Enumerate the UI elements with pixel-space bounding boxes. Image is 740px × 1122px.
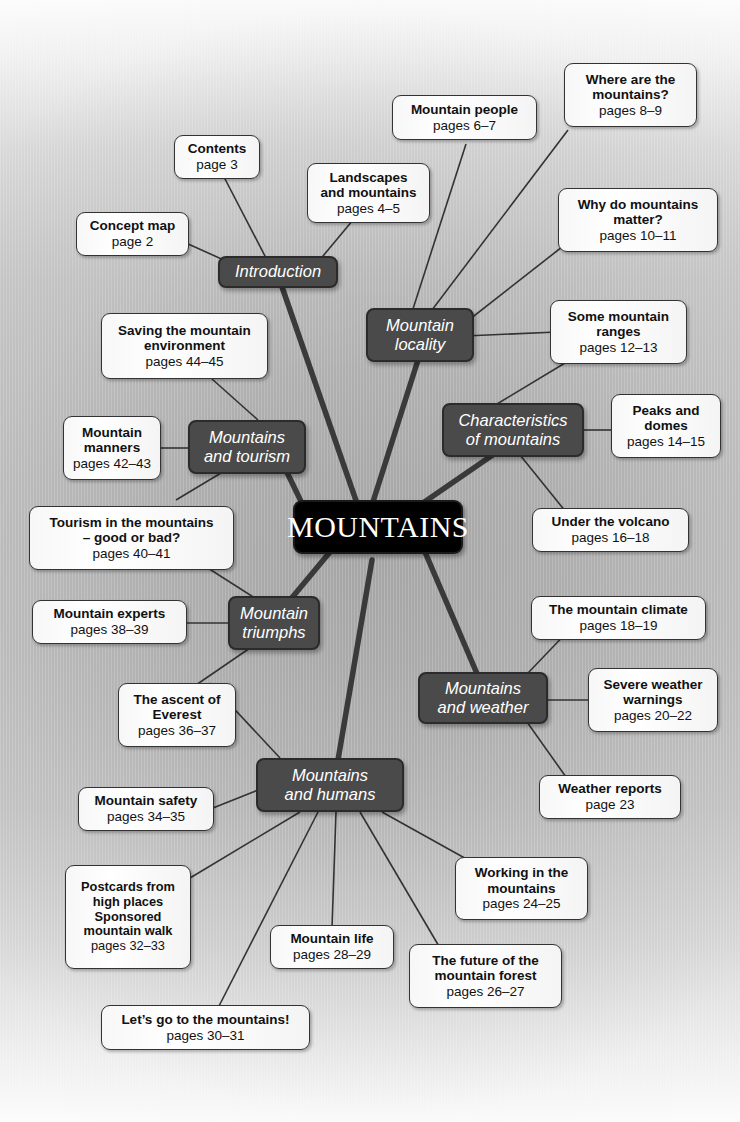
leaf-pages-the-ascent-of-everest: pages 36–37 <box>138 723 216 739</box>
trunk-characteristics <box>420 452 497 505</box>
leaf-node-some-mountain-ranges[interactable]: Some mountainranges pages 12–13 <box>550 300 687 364</box>
leaf-node-mountain-manners[interactable]: Mountainmanners pages 42–43 <box>63 416 161 480</box>
link-tourism-good-bad-2 <box>176 470 226 500</box>
leaf-node-lets-go-to-the-mountains[interactable]: Let’s go to the mountains! pages 30–31 <box>101 1005 310 1050</box>
branch-label-mountains-and-tourism: Mountainsand tourism <box>204 428 290 467</box>
leaf-title-weather-reports: Weather reports <box>558 781 661 797</box>
leaf-title-mountain-safety: Mountain safety <box>95 793 198 809</box>
leaf-pages-working-in-the-mountains: pages 24–25 <box>482 896 560 912</box>
center-node-mountains[interactable]: MOUNTAINS <box>293 500 463 554</box>
leaf-node-working-in-the-mountains[interactable]: Working in themountains pages 24–25 <box>455 857 588 920</box>
leaf-pages-mountain-safety: pages 34–35 <box>107 809 185 825</box>
leaf-node-under-the-volcano[interactable]: Under the volcano pages 16–18 <box>532 508 689 552</box>
leaf-node-the-mountain-climate[interactable]: The mountain climate pages 18–19 <box>531 596 706 640</box>
branch-node-mountain-locality[interactable]: Mountainlocality <box>366 308 474 362</box>
branch-label-mountain-locality: Mountainlocality <box>386 316 454 355</box>
leaf-title-working-in-the-mountains: Working in themountains <box>475 865 569 896</box>
leaf-title-landscapes: Landscapesand mountains <box>320 170 416 201</box>
leaf-pages-the-future-of-the-mountain-forest: pages 26–27 <box>446 984 524 1000</box>
leaf-title-lets-go-to-the-mountains: Let’s go to the mountains! <box>121 1012 289 1028</box>
leaf-title-postcards-from-high-places: Postcards fromhigh placesSponsoredmounta… <box>81 880 175 939</box>
leaf-pages-the-mountain-climate: pages 18–19 <box>579 618 657 634</box>
trunk-humans <box>338 560 372 760</box>
leaf-pages-landscapes: pages 4–5 <box>337 201 400 217</box>
leaf-title-peaks-and-domes: Peaks anddomes <box>633 403 700 434</box>
leaf-pages-mountain-manners: pages 42–43 <box>73 456 151 472</box>
link-under-volcano <box>520 455 566 512</box>
link-mountain-safety <box>213 790 258 808</box>
leaf-pages-peaks-and-domes: pages 14–15 <box>627 434 705 450</box>
leaf-pages-some-mountain-ranges: pages 12–13 <box>579 340 657 356</box>
branch-node-mountains-and-humans[interactable]: Mountainsand humans <box>256 758 404 812</box>
leaf-pages-lets-go-to-the-mountains: pages 30–31 <box>166 1028 244 1044</box>
concept-map-canvas: MOUNTAINS Introduction Mountainlocality … <box>0 0 740 1122</box>
leaf-title-mountain-manners: Mountainmanners <box>82 425 142 456</box>
leaf-node-contents[interactable]: Contents page 3 <box>174 135 260 179</box>
leaf-pages-mountain-experts: pages 38–39 <box>70 622 148 638</box>
leaf-node-severe-weather-warnings[interactable]: Severe weatherwarnings pages 20–22 <box>588 668 718 732</box>
leaf-title-where-are-the-mountains: Where are themountains? <box>586 72 675 103</box>
leaf-pages-saving-the-mountain-environment: pages 44–45 <box>145 354 223 370</box>
leaf-title-some-mountain-ranges: Some mountainranges <box>568 309 669 340</box>
leaf-node-saving-the-mountain-environment[interactable]: Saving the mountainenvironment pages 44–… <box>101 313 268 379</box>
leaf-title-severe-weather-warnings: Severe weatherwarnings <box>603 677 702 708</box>
trunk-introduction <box>281 284 360 512</box>
center-node-label: MOUNTAINS <box>287 510 469 544</box>
leaf-title-why-do-mountains-matter: Why do mountainsmatter? <box>578 197 699 228</box>
branch-node-mountains-and-tourism[interactable]: Mountainsand tourism <box>188 420 306 474</box>
leaf-title-the-ascent-of-everest: The ascent ofEverest <box>133 692 220 723</box>
leaf-node-postcards-from-high-places[interactable]: Postcards fromhigh placesSponsoredmounta… <box>65 865 191 969</box>
leaf-node-concept-map[interactable]: Concept map page 2 <box>76 212 189 256</box>
branch-node-mountain-triumphs[interactable]: Mountaintriumphs <box>228 596 320 650</box>
leaf-node-mountain-life[interactable]: Mountain life pages 28–29 <box>270 925 394 969</box>
branch-node-introduction[interactable]: Introduction <box>218 256 338 288</box>
branch-label-mountains-and-humans: Mountainsand humans <box>285 766 376 805</box>
leaf-title-mountain-people: Mountain people <box>411 102 518 118</box>
link-contents <box>224 177 266 258</box>
leaf-node-mountain-safety[interactable]: Mountain safety pages 34–35 <box>78 787 214 831</box>
leaf-title-tourism-in-the-mountains: Tourism in the mountains– good or bad? <box>49 515 213 546</box>
leaf-pages-mountain-life: pages 28–29 <box>293 947 371 963</box>
link-mountain-life <box>332 812 336 928</box>
link-saving-environment <box>212 379 258 420</box>
leaf-node-weather-reports[interactable]: Weather reports page 23 <box>539 775 681 819</box>
branch-node-characteristics[interactable]: Characteristicsof mountains <box>442 403 584 457</box>
leaf-title-the-future-of-the-mountain-forest: The future of themountain forest <box>432 953 539 984</box>
leaf-pages-contents: page 3 <box>196 157 237 173</box>
leaf-pages-tourism-in-the-mountains: pages 40–41 <box>92 546 170 562</box>
leaf-title-saving-the-mountain-environment: Saving the mountainenvironment <box>118 323 251 354</box>
leaf-title-the-mountain-climate: The mountain climate <box>549 602 688 618</box>
leaf-node-peaks-and-domes[interactable]: Peaks anddomes pages 14–15 <box>611 394 721 458</box>
leaf-node-the-future-of-the-mountain-forest[interactable]: The future of themountain forest pages 2… <box>409 944 562 1008</box>
branch-node-mountains-and-weather[interactable]: Mountainsand weather <box>418 672 548 724</box>
leaf-node-landscapes[interactable]: Landscapesand mountains pages 4–5 <box>307 163 430 223</box>
leaf-node-mountain-people[interactable]: Mountain people pages 6–7 <box>392 95 537 140</box>
trunk-weather <box>425 552 478 676</box>
link-lets-go <box>218 812 318 1008</box>
leaf-pages-why-do-mountains-matter: pages 10–11 <box>599 228 676 244</box>
leaf-pages-weather-reports: page 23 <box>586 797 635 813</box>
link-working-in <box>382 812 470 861</box>
leaf-node-the-ascent-of-everest[interactable]: The ascent ofEverest pages 36–37 <box>118 683 236 747</box>
link-weather-reports <box>527 722 566 777</box>
leaf-node-tourism-in-the-mountains[interactable]: Tourism in the mountains– good or bad? p… <box>29 506 234 570</box>
leaf-node-mountain-experts[interactable]: Mountain experts pages 38–39 <box>32 600 187 644</box>
link-some-ranges <box>465 332 557 336</box>
leaf-pages-mountain-people: pages 6–7 <box>433 118 496 134</box>
link-where-are <box>432 130 568 310</box>
trunk-locality <box>372 360 418 505</box>
leaf-title-mountain-experts: Mountain experts <box>54 606 166 622</box>
leaf-title-contents: Contents <box>188 141 247 157</box>
leaf-node-why-do-mountains-matter[interactable]: Why do mountainsmatter? pages 10–11 <box>558 188 718 252</box>
branch-label-mountains-and-weather: Mountainsand weather <box>438 679 529 718</box>
trunk-triumphs <box>290 552 330 600</box>
leaf-title-mountain-life: Mountain life <box>290 931 373 947</box>
leaf-pages-severe-weather-warnings: pages 20–22 <box>614 708 692 724</box>
branch-label-introduction: Introduction <box>235 262 321 281</box>
leaf-node-where-are-the-mountains[interactable]: Where are themountains? pages 8–9 <box>564 63 697 127</box>
link-ascent-everest-2 <box>196 648 250 685</box>
leaf-pages-where-are-the-mountains: pages 8–9 <box>599 103 662 119</box>
leaf-pages-concept-map: page 2 <box>112 234 153 250</box>
leaf-title-under-the-volcano: Under the volcano <box>552 514 670 530</box>
leaf-pages-under-the-volcano: pages 16–18 <box>571 530 649 546</box>
